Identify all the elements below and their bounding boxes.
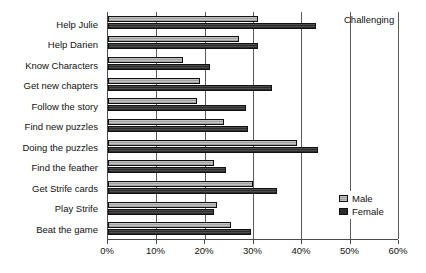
bar-male — [108, 98, 197, 104]
category-label: Find the feather — [0, 158, 104, 179]
bar-male — [108, 181, 253, 187]
x-tick-label: 0% — [100, 245, 114, 257]
bar-group — [108, 156, 398, 177]
tick-mark — [398, 240, 399, 244]
tick-mark — [350, 240, 351, 244]
gridline — [398, 12, 399, 239]
legend-label: Male — [352, 194, 373, 204]
bar-group — [108, 53, 398, 74]
legend-swatch-male — [339, 195, 348, 202]
bar-female — [108, 64, 210, 70]
category-label: Help Julie — [0, 14, 104, 35]
legend-item: Female — [339, 205, 384, 218]
bar-female — [108, 209, 214, 215]
bar-chart: Help JulieHelp DarienKnow CharactersGet … — [0, 0, 426, 273]
bar-male — [108, 78, 200, 84]
bar-male — [108, 57, 183, 63]
bar-male — [108, 119, 224, 125]
bar-female — [108, 85, 272, 91]
x-axis-tick-labels: 0%10%20%30%40%50%60% — [107, 245, 398, 259]
x-tick-label: 10% — [146, 245, 165, 257]
bar-female — [108, 147, 318, 153]
x-tick-label: 30% — [243, 245, 262, 257]
category-axis-labels: Help JulieHelp DarienKnow CharactersGet … — [0, 14, 104, 240]
x-tick-label: 20% — [194, 245, 213, 257]
tick-mark — [253, 240, 254, 244]
bar-male — [108, 160, 214, 166]
bar-female — [108, 105, 246, 111]
category-label: Play Strife — [0, 199, 104, 220]
category-label: Find new puzzles — [0, 117, 104, 138]
bar-female — [108, 126, 248, 132]
bar-male — [108, 36, 239, 42]
category-label: Doing the puzzles — [0, 137, 104, 158]
chart-title: Challenging — [344, 14, 394, 26]
category-label: Know Characters — [0, 55, 104, 76]
bar-group — [108, 74, 398, 95]
bar-female — [108, 43, 258, 49]
legend-item: Male — [339, 192, 384, 205]
category-label: Beat the game — [0, 219, 104, 240]
bar-female — [108, 23, 316, 29]
tick-mark — [156, 240, 157, 244]
x-tick-label: 40% — [291, 245, 310, 257]
bar-female — [108, 188, 277, 194]
bar-female — [108, 229, 251, 235]
bar-male — [108, 140, 297, 146]
bar-group — [108, 136, 398, 157]
bar-female — [108, 167, 226, 173]
tick-mark — [107, 240, 108, 244]
legend: MaleFemale — [337, 191, 386, 219]
category-label: Get new chapters — [0, 76, 104, 97]
bar-male — [108, 222, 231, 228]
bar-group — [108, 115, 398, 136]
bar-group — [108, 33, 398, 54]
x-tick-label: 60% — [388, 245, 407, 257]
bar-group — [108, 95, 398, 116]
tick-mark — [301, 240, 302, 244]
bar-group — [108, 218, 398, 239]
x-tick-label: 50% — [340, 245, 359, 257]
legend-label: Female — [352, 207, 384, 217]
category-label: Follow the story — [0, 96, 104, 117]
bar-male — [108, 202, 217, 208]
bar-male — [108, 16, 258, 22]
category-label: Get Strife cards — [0, 178, 104, 199]
tick-mark — [204, 240, 205, 244]
legend-swatch-female — [339, 208, 348, 215]
category-label: Help Darien — [0, 35, 104, 56]
